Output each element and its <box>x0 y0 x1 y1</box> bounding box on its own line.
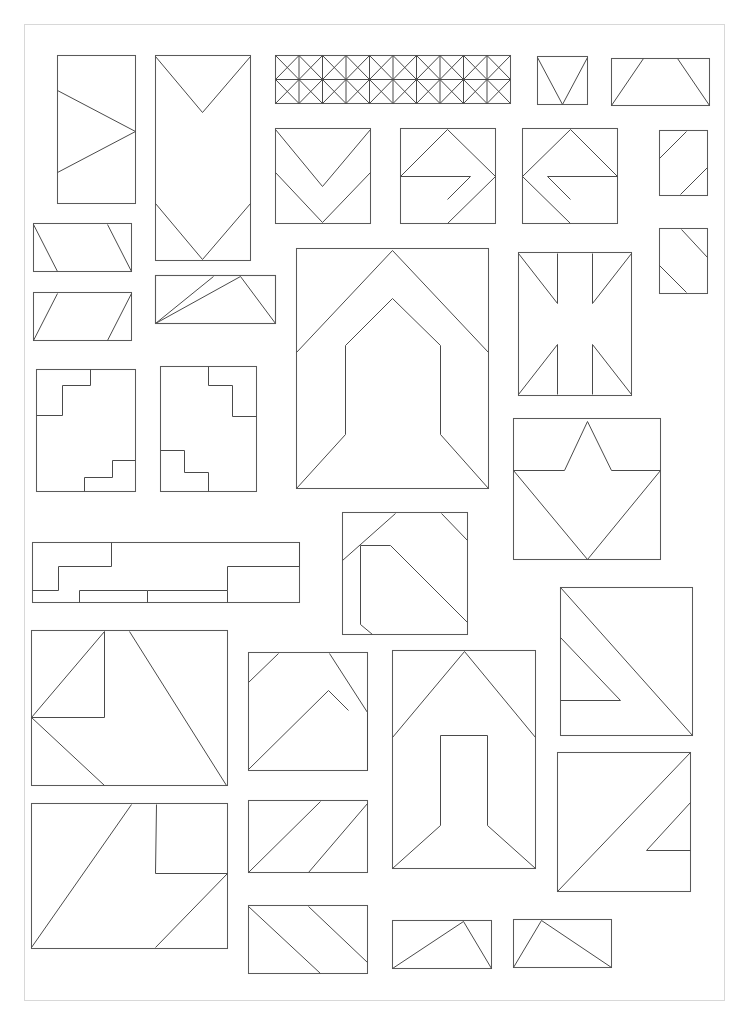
square-corner-bands-right-diagonal-outline <box>249 653 368 771</box>
square-chevron-double-down-line-2 <box>276 173 371 223</box>
square-union-jack-cross-outline <box>519 253 632 396</box>
wide-rect-parallelogram-b-outline <box>34 293 132 341</box>
figure-wide-rect-double-triangle <box>156 276 276 324</box>
figure-square-star-crown <box>514 419 661 560</box>
figure-wide-truss-band-x-lattice <box>276 56 511 104</box>
wide-rect-parallelogram-b-line-2 <box>108 294 132 341</box>
square-corner-bands-right-diagonal-line-3 <box>330 654 368 713</box>
square-corner-bands-diagonal-line-3 <box>442 514 468 541</box>
wide-rect-zigzag-stepped-slants-line-3 <box>156 874 228 948</box>
tall-rect-zigzag-arrow-left-outline <box>58 56 136 204</box>
square-union-jack-cross-line-4 <box>593 345 632 395</box>
large-square-nested-arrowhead-house-line-1 <box>297 251 489 353</box>
square-nested-arrow-right-to-diagonal-line-1 <box>558 753 691 892</box>
figure-wide-rect-trapezoid-slants <box>612 59 710 106</box>
wide-rect-zigzag-double-slant-line-3 <box>130 632 227 786</box>
wide-rect-parallelogram-a-line-1 <box>34 225 58 272</box>
tall-rect-double-chevron-down-outline <box>156 56 251 261</box>
figure-small-rect-two-corner-slants-a <box>660 131 708 196</box>
square-nested-arrow-left-to-diagonal-line-1 <box>561 588 693 736</box>
figure-rect-stepped-corners-b <box>161 367 257 492</box>
wide-stepped-plateau-strip-line-1 <box>33 543 112 591</box>
square-corner-bands-right-diagonal-line-2 <box>249 691 349 770</box>
figure-large-square-nested-arrowhead-house <box>297 249 489 489</box>
wide-rect-two-parallel-slants-a-line-1 <box>249 802 321 873</box>
tall-rect-double-chevron-down-line-1 <box>156 57 251 113</box>
square-chevron-double-down-line-1 <box>276 130 371 187</box>
square-star-crown-outline <box>514 419 661 560</box>
wide-rect-two-parallel-slants-b-line-2 <box>309 907 368 963</box>
figure-square-chevron-double-down <box>276 129 371 224</box>
figure-wide-rect-two-parallel-slants-b <box>249 906 368 974</box>
square-union-jack-cross-line-2 <box>593 254 632 304</box>
wide-rect-double-triangle-line-2 <box>156 277 276 324</box>
figure-square-nested-arrow-right-to-diagonal <box>558 753 691 892</box>
rect-stepped-corners-a-outline <box>37 370 136 492</box>
wide-rect-parallelogram-b-line-1 <box>34 294 58 341</box>
square-star-crown-line-2 <box>514 471 661 560</box>
small-rect-two-corner-slants-b-line-1 <box>682 230 708 258</box>
tall-square-peak-with-column-line-1 <box>393 652 536 738</box>
wide-rect-zigzag-double-slant-line-2 <box>32 718 105 786</box>
small-rect-two-corner-slants-a-line-1 <box>660 132 687 159</box>
wide-rect-parallelogram-a-line-2 <box>108 225 132 272</box>
drawing-sheet <box>0 0 748 1024</box>
square-corner-bands-diagonal-outline <box>343 513 468 635</box>
figure-square-nested-arrow-left-to-diagonal <box>561 588 693 736</box>
wide-rect-two-parallel-slants-a-outline <box>249 801 368 873</box>
wide-stepped-plateau-strip-line-2 <box>148 543 300 591</box>
figure-square-arrow-left-outline <box>523 129 618 224</box>
wide-rect-zigzag-double-slant-outline <box>32 631 228 786</box>
figure-small-square-v-notch <box>538 57 588 105</box>
small-rect-two-corner-slants-b-outline <box>660 229 708 294</box>
small-rect-triangle-left-apex-line-1 <box>514 921 612 968</box>
square-corner-bands-diagonal-line-1 <box>343 514 396 561</box>
square-star-crown-line-1 <box>514 422 661 471</box>
square-nested-arrow-left-to-diagonal-line-2 <box>561 638 621 701</box>
figure-wide-rect-two-parallel-slants-a <box>249 801 368 873</box>
square-chevron-double-down-outline <box>276 129 371 224</box>
large-square-nested-arrowhead-house-outline <box>297 249 489 489</box>
wide-rect-zigzag-stepped-slants-line-2 <box>156 805 228 874</box>
figure-square-union-jack-cross <box>519 253 632 396</box>
square-union-jack-cross-line-3 <box>519 345 558 395</box>
square-arrow-left-outline-line-2 <box>548 177 618 200</box>
small-square-v-notch-outline <box>538 57 588 105</box>
wide-rect-zigzag-double-slant-line-1 <box>32 632 105 718</box>
figure-tall-rect-double-chevron-down <box>156 56 251 261</box>
wide-rect-trapezoid-slants-line-2 <box>678 59 710 106</box>
rect-stepped-corners-a-line-2 <box>85 461 136 492</box>
small-rect-two-corner-slants-b-line-2 <box>660 266 687 293</box>
tall-rect-double-chevron-down-line-2 <box>156 204 251 260</box>
figure-square-arrow-right-outline <box>401 129 496 224</box>
wide-rect-two-parallel-slants-a-line-2 <box>309 804 368 873</box>
small-rect-two-corner-slants-a-line-2 <box>681 168 708 195</box>
figure-tall-rect-zigzag-arrow-left <box>58 56 136 204</box>
figure-wide-rect-parallelogram-a <box>34 224 132 272</box>
figure-wide-rect-zigzag-stepped-slants <box>32 804 228 949</box>
square-corner-bands-right-diagonal-line-1 <box>249 654 279 683</box>
wide-rect-trapezoid-slants-line-1 <box>612 59 644 106</box>
figure-small-rect-triangle-left-apex <box>514 920 612 968</box>
square-arrow-right-outline-line-2 <box>401 177 471 200</box>
figure-canvas <box>0 0 748 1024</box>
rect-stepped-corners-a-line-1 <box>37 370 91 416</box>
small-rect-triangle-right-apex-line-1 <box>393 922 492 969</box>
wide-rect-double-triangle-line-1 <box>156 277 214 324</box>
large-square-nested-arrowhead-house-line-2 <box>297 299 489 489</box>
rect-stepped-corners-b-line-1 <box>209 367 257 417</box>
rect-stepped-corners-b-line-2 <box>161 451 209 492</box>
wide-rect-parallelogram-a-outline <box>34 224 132 272</box>
small-rect-two-corner-slants-a-outline <box>660 131 708 196</box>
figure-square-corner-bands-right-diagonal <box>249 653 368 771</box>
wide-rect-zigzag-stepped-slants-line-1 <box>32 805 132 948</box>
tall-square-peak-with-column-line-2 <box>393 736 536 869</box>
small-square-v-notch-line-1 <box>538 58 588 105</box>
figure-wide-rect-zigzag-double-slant <box>32 631 228 786</box>
wide-stepped-plateau-strip-outline <box>33 543 300 603</box>
square-nested-arrow-right-to-diagonal-line-2 <box>647 803 691 851</box>
figure-small-rect-triangle-right-apex <box>393 921 492 969</box>
figure-square-corner-bands-diagonal <box>343 513 468 635</box>
tall-rect-zigzag-arrow-left-line-1 <box>58 91 136 173</box>
wide-rect-trapezoid-slants-outline <box>612 59 710 106</box>
